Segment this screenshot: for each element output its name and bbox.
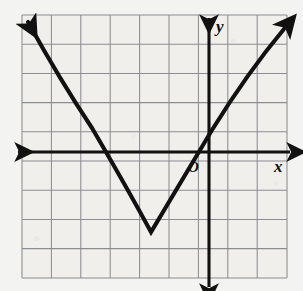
y-axis-label: y bbox=[214, 17, 224, 36]
origin-label: O bbox=[188, 159, 199, 175]
x-axis-label: x bbox=[273, 157, 283, 176]
grid-panel bbox=[22, 15, 287, 278]
graph-figure: y x O bbox=[0, 0, 303, 291]
parabola-plot: y x O bbox=[0, 0, 303, 291]
